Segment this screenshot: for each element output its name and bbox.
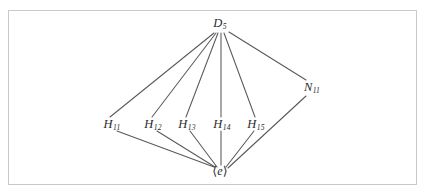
lattice-node-n11: N11 — [304, 81, 320, 95]
lattice-node-h15: H15 — [247, 118, 264, 132]
lattice-node-label: H — [178, 117, 187, 131]
lattice-node-subscript: 14 — [222, 123, 230, 132]
lattice-node-h11: H11 — [104, 118, 121, 132]
figure-frame — [8, 10, 417, 185]
lattice-node-e: ⟨e⟩ — [212, 165, 227, 178]
figure-canvas: D5H11H12H13H14H15N11⟨e⟩ — [0, 0, 425, 194]
lattice-node-d5: D5 — [213, 17, 226, 31]
lattice-node-label: H — [247, 117, 256, 131]
lattice-node-h14: H14 — [213, 118, 230, 132]
lattice-node-subscript: 12 — [153, 123, 161, 132]
lattice-node-subscript: 15 — [256, 123, 264, 132]
lattice-node-h12: H12 — [144, 118, 161, 132]
lattice-node-h13: H13 — [178, 118, 195, 132]
lattice-node-label: H — [213, 117, 222, 131]
lattice-node-label: H — [144, 117, 153, 131]
lattice-node-subscript: 13 — [187, 123, 195, 132]
lattice-node-subscript: 11 — [312, 86, 320, 95]
angle-bracket-close-icon: ⟩ — [223, 164, 228, 178]
lattice-node-subscript: 5 — [222, 22, 226, 31]
lattice-node-label: D — [213, 16, 222, 30]
lattice-node-subscript: 11 — [113, 123, 121, 132]
lattice-node-label: H — [104, 117, 113, 131]
